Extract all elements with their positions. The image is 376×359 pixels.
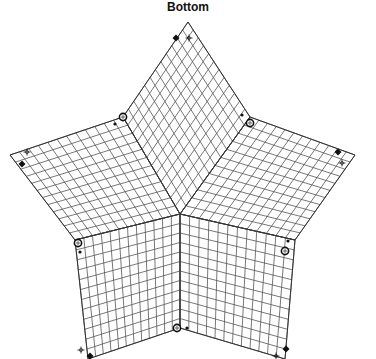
ring-marker-icon: [74, 239, 81, 246]
dot-marker-icon: [78, 250, 81, 253]
dot-marker-icon: [185, 326, 188, 329]
ring-marker-icon: [173, 324, 180, 331]
right-face: [180, 117, 355, 240]
ring-marker-icon: [119, 113, 126, 120]
bottom-left-face: [75, 214, 180, 359]
grid-lines: [180, 117, 355, 240]
diamond-marker-icon: [283, 346, 290, 353]
star-grid-diagram: [0, 0, 376, 359]
ring-marker-icon: [246, 119, 253, 126]
bottom-right-face: [180, 214, 295, 359]
dot-marker-icon: [286, 239, 289, 242]
dot-marker-icon: [113, 122, 116, 125]
diamond-marker-icon: [19, 161, 26, 168]
grid-faces: [10, 22, 355, 359]
ring-marker-icon: [281, 247, 288, 254]
cross-marker-icon: [78, 347, 85, 354]
dot-marker-icon: [240, 113, 243, 116]
cross-marker-icon: [273, 353, 280, 359]
face-outline: [180, 117, 355, 240]
